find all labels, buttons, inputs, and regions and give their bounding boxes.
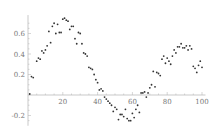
data-point xyxy=(123,116,125,118)
data-point xyxy=(185,45,187,47)
data-point xyxy=(29,93,31,95)
data-point xyxy=(71,25,73,27)
data-point xyxy=(57,23,59,25)
data-point xyxy=(97,82,99,84)
data-point xyxy=(182,47,184,49)
y-tick-label: 0.2 xyxy=(14,71,25,79)
data-point xyxy=(67,20,69,22)
data-point xyxy=(170,63,172,65)
data-point xyxy=(145,96,147,98)
data-point xyxy=(53,22,55,24)
data-point xyxy=(116,108,118,110)
data-point xyxy=(45,49,47,51)
data-points xyxy=(29,17,203,121)
data-point xyxy=(91,68,93,70)
data-point xyxy=(147,92,149,94)
data-point xyxy=(177,46,179,48)
data-point xyxy=(55,33,57,35)
data-point xyxy=(50,42,52,44)
data-point xyxy=(109,102,111,104)
data-point xyxy=(125,108,127,110)
data-point xyxy=(43,52,45,54)
data-point xyxy=(60,32,62,34)
x-tick-label: 20 xyxy=(58,98,67,106)
data-point xyxy=(161,58,163,60)
data-point xyxy=(172,55,174,57)
data-point xyxy=(98,89,100,91)
data-point xyxy=(74,38,76,40)
data-point xyxy=(112,111,114,113)
data-point xyxy=(189,45,191,47)
data-point xyxy=(130,120,132,122)
data-point xyxy=(159,75,161,77)
data-point xyxy=(62,18,64,20)
data-point xyxy=(168,60,170,62)
x-tick-label: 40 xyxy=(93,98,102,106)
tick-labels: 20406080100-0.20.20.40.6 xyxy=(12,30,209,120)
data-point xyxy=(32,77,34,79)
data-point xyxy=(39,58,41,60)
data-point xyxy=(199,60,201,62)
y-tick-label: 0.6 xyxy=(14,30,26,38)
data-point xyxy=(105,98,107,100)
data-point xyxy=(36,60,38,62)
x-tick-label: 60 xyxy=(128,98,137,106)
data-point xyxy=(95,79,97,81)
data-point xyxy=(64,17,66,19)
data-point xyxy=(196,72,198,74)
data-point xyxy=(135,108,137,110)
data-point xyxy=(85,53,87,55)
data-point xyxy=(76,43,78,45)
data-point xyxy=(151,84,153,86)
scatter-chart: 20406080100-0.20.20.40.6 xyxy=(0,0,221,138)
data-point xyxy=(72,25,74,27)
data-point xyxy=(152,71,154,73)
data-point xyxy=(83,52,85,54)
data-point xyxy=(81,43,83,45)
data-point xyxy=(126,118,128,120)
data-point xyxy=(184,47,186,49)
data-point xyxy=(48,31,50,33)
data-point xyxy=(86,55,88,57)
data-point xyxy=(140,92,142,94)
data-point xyxy=(121,114,123,116)
data-point xyxy=(128,120,130,122)
data-point xyxy=(166,57,168,59)
data-point xyxy=(102,90,104,92)
data-point xyxy=(41,50,43,52)
data-point xyxy=(133,117,135,119)
data-point xyxy=(107,100,109,102)
data-point xyxy=(194,67,196,69)
data-point xyxy=(114,106,116,108)
data-point xyxy=(31,76,33,78)
data-point xyxy=(138,112,140,114)
data-point xyxy=(163,55,165,57)
x-tick-label: 80 xyxy=(163,98,172,106)
data-point xyxy=(65,19,67,21)
data-point xyxy=(173,49,175,51)
data-point xyxy=(79,33,81,35)
data-point xyxy=(38,57,40,59)
data-point xyxy=(165,62,167,64)
data-point xyxy=(51,25,53,27)
data-point xyxy=(192,65,194,67)
data-point xyxy=(137,104,139,106)
data-point xyxy=(180,43,182,45)
data-point xyxy=(154,86,156,88)
data-point xyxy=(132,113,134,115)
data-point xyxy=(78,32,80,34)
data-point xyxy=(104,96,106,98)
data-point xyxy=(69,29,71,31)
data-point xyxy=(111,104,113,106)
y-tick-label: 0.4 xyxy=(14,51,26,59)
data-point xyxy=(58,32,60,34)
data-point xyxy=(119,114,121,116)
data-point xyxy=(118,119,120,121)
data-point xyxy=(149,87,151,89)
x-tick-label: 100 xyxy=(195,98,208,106)
data-point xyxy=(175,52,177,54)
data-point xyxy=(93,74,95,76)
data-point xyxy=(198,64,200,66)
data-point xyxy=(187,49,189,51)
data-point xyxy=(156,72,158,74)
